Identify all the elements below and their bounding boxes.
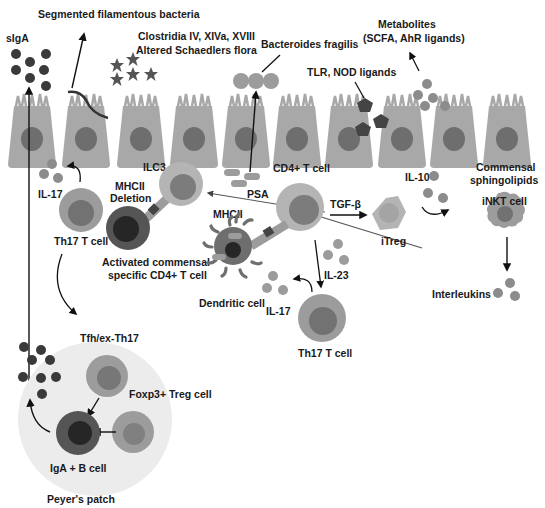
- label-metabolites: Metabolites: [378, 18, 436, 30]
- itreg-cell: IL-10 iTreg: [372, 171, 448, 247]
- label-foxp3: Foxp3+ Treg cell: [129, 388, 212, 400]
- label-il10: IL-10: [405, 171, 430, 183]
- label-schaedlers: Altered Schaedlers flora: [136, 44, 257, 56]
- label-dendritic-cell: Dendritic cell: [199, 297, 265, 309]
- gut-immunity-diagram: Segmented filamentous bacteria sIgA Clos…: [0, 0, 545, 508]
- label-peyers-patch: Peyer's patch: [47, 493, 115, 505]
- label-il23: IL-23: [324, 269, 349, 281]
- label-tgf-beta: TGF-β: [330, 198, 361, 210]
- label-commensal: Commensal: [476, 161, 536, 173]
- peyers-patch: Tfh/ex-Th17 Foxp3+ Treg cell IgA + B cel…: [18, 332, 212, 505]
- th17-cell-middle: IL-23 IL-17 Th17 T cell: [262, 239, 352, 359]
- label-activated-commensal: Activated commensal: [102, 256, 210, 268]
- inkt-cell: Commensal sphingolipids iNKT cell Interl…: [432, 161, 538, 301]
- siga-group: sIgA: [6, 32, 51, 412]
- label-clostridia: Clostridia IV, XIVa, XVIII: [138, 30, 255, 42]
- psa-group: PSA: [224, 169, 269, 200]
- th17-cell-left: IL-17 Th17 T cell: [38, 159, 108, 314]
- label-tlr-nod: TLR, NOD ligands: [307, 66, 396, 78]
- ilc3-and-activated-cd4: ILC3 MHCII Deletion Activated commensal …: [102, 161, 210, 281]
- label-specific-cd4: specific CD4+ T cell: [108, 269, 207, 281]
- label-psa: PSA: [247, 188, 269, 200]
- label-iga-b-cell: IgA + B cell: [50, 462, 107, 474]
- label-th17-left: Th17 T cell: [54, 235, 108, 247]
- label-bacteroides: Bacteroides fragilis: [261, 38, 359, 50]
- label-tfh: Tfh/ex-Th17: [80, 332, 139, 344]
- label-metabolites-detail: (SCFA, AhR ligands): [363, 32, 465, 44]
- label-il17-middle: IL-17: [266, 305, 291, 317]
- label-th17-middle: Th17 T cell: [298, 347, 352, 359]
- label-mhcii-deletion: MHCII: [115, 180, 145, 192]
- label-deletion: Deletion: [110, 192, 151, 204]
- label-ilc3: ILC3: [143, 161, 166, 173]
- label-sphingolipids: sphingolipids: [470, 174, 538, 186]
- label-inkt: iNKT cell: [482, 195, 527, 207]
- label-interleukins: Interleukins: [432, 288, 491, 300]
- epithelial-layer: [8, 94, 531, 168]
- label-siga: sIgA: [6, 32, 29, 44]
- label-itreg: iTreg: [381, 235, 406, 247]
- dendritic-cell: MHCII Dendritic cell: [199, 208, 287, 309]
- label-il17-left: IL-17: [38, 188, 63, 200]
- metabolites-group: Metabolites (SCFA, AhR ligands): [363, 18, 465, 111]
- label-segmented-bacteria: Segmented filamentous bacteria: [38, 8, 200, 20]
- label-cd4: CD4+ T cell: [273, 162, 330, 174]
